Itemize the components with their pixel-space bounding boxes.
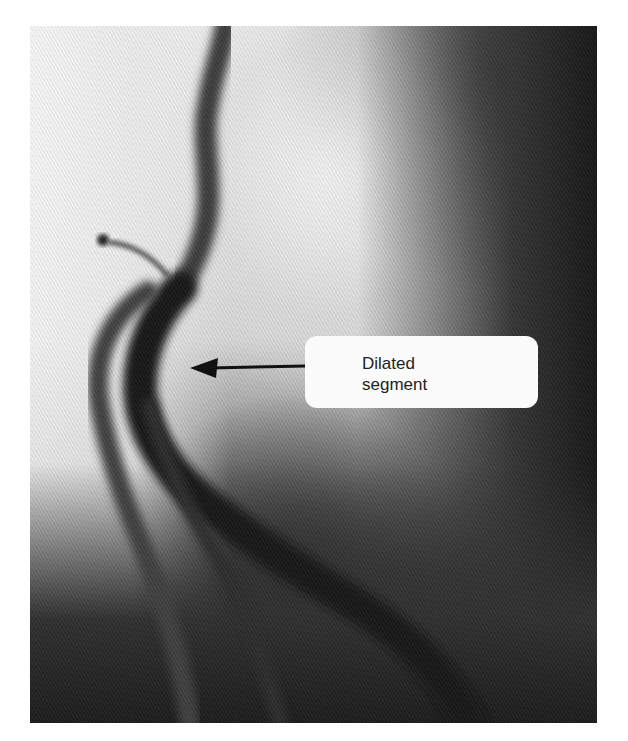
callout-label-line1: Dilated	[362, 353, 538, 374]
annotation-callout-box: Dilated segment	[305, 336, 538, 408]
callout-label-line2: segment	[362, 374, 538, 395]
